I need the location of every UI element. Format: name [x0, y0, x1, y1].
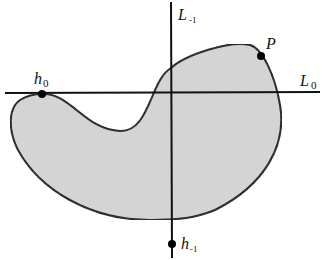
label-L0: L0 [299, 72, 317, 91]
label-h-1: h-1 [181, 235, 198, 254]
point-h-1 [168, 240, 176, 248]
vertical-line-L-1 [171, 2, 172, 258]
shaded-region [11, 44, 282, 220]
point-P [257, 52, 265, 60]
diagram-canvas: h0 P h-1 L-1 L0 [0, 0, 324, 260]
horizontal-line-L0 [5, 92, 320, 93]
label-L-1: L-1 [177, 6, 196, 25]
point-h0 [38, 90, 46, 98]
label-P: P [265, 35, 276, 52]
diagram-svg: h0 P h-1 L-1 L0 [0, 0, 324, 260]
label-h0: h0 [34, 70, 49, 89]
